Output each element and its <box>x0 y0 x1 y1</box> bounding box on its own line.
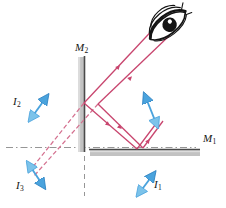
I2-arrow <box>32 99 45 117</box>
ray-m1-reflect-a <box>137 121 158 149</box>
optics-figure: M2 M1 I1 I2 I3 <box>0 0 226 208</box>
ray-m2-to-m1-a <box>84 103 137 149</box>
label-image-3: I3 <box>16 180 23 191</box>
virtual-ray-a <box>28 103 84 173</box>
label-mirror-2: M2 <box>75 42 88 53</box>
virtual-rays <box>28 103 98 176</box>
I1-arrow <box>140 176 152 192</box>
figure-canvas <box>0 0 226 208</box>
label-image-1: I1 <box>154 179 161 190</box>
object-arrow <box>146 98 156 123</box>
image-arrows <box>30 98 156 192</box>
ray-to-eye-outer <box>84 22 160 103</box>
ray-m1-reflect-b <box>143 121 163 148</box>
label-mirror-1: M1 <box>203 133 216 144</box>
eye-icon <box>140 0 195 47</box>
mirror-m1 <box>89 150 200 157</box>
ray-to-eye-inner <box>98 35 170 104</box>
virtual-ray-b <box>34 104 98 176</box>
label-image-2: I2 <box>13 96 20 107</box>
